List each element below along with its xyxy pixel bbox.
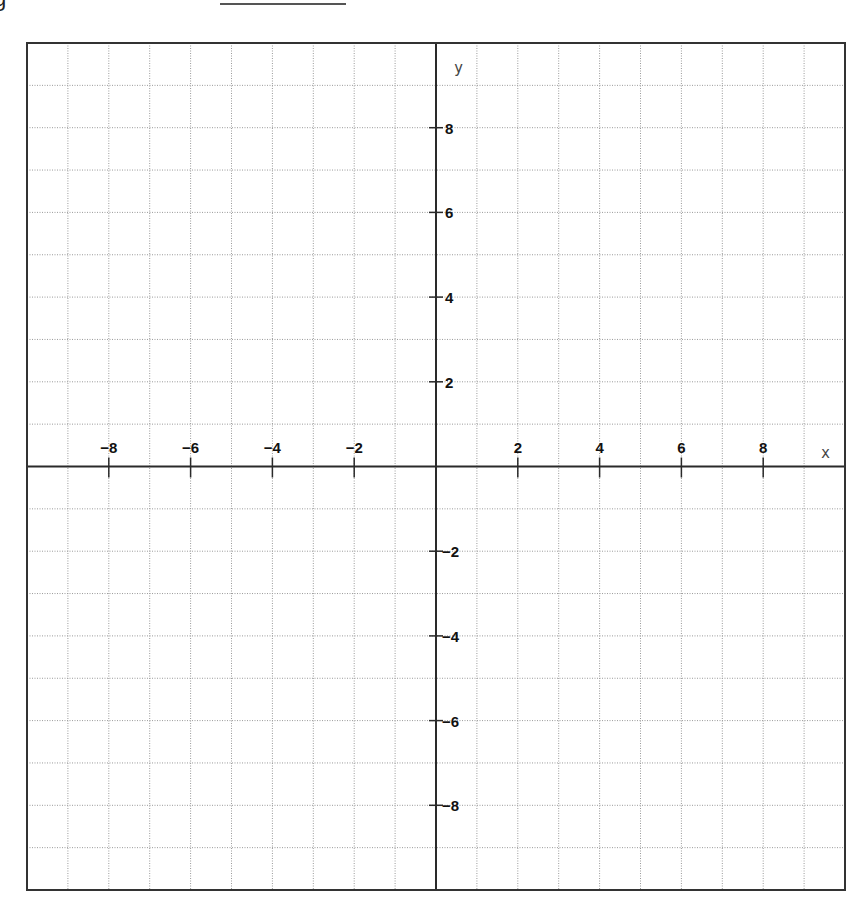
x-tick-label: 4 bbox=[595, 439, 604, 456]
y-tick-label: 6 bbox=[442, 204, 453, 221]
x-tick-label: 8 bbox=[759, 439, 767, 456]
y-tick-label: 4 bbox=[442, 289, 454, 306]
x-tick-label: −6 bbox=[182, 439, 199, 456]
x-tick-label: 6 bbox=[677, 439, 685, 456]
x-tick-label: 2 bbox=[514, 439, 522, 456]
x-tick-label: −8 bbox=[100, 439, 117, 456]
y-tick-label: 2 bbox=[442, 374, 453, 391]
x-tick-label: −2 bbox=[346, 439, 363, 456]
y-tick-label: −2 bbox=[442, 543, 459, 560]
y-tick-label: 8 bbox=[442, 120, 453, 137]
y-tick-label: −6 bbox=[442, 713, 459, 730]
y-tick-label: −4 bbox=[442, 628, 460, 645]
coordinate-plane: −8−6−4−22468 8 6 4 2−2−4−6−8 x y bbox=[0, 0, 861, 906]
y-tick-label: −8 bbox=[442, 797, 459, 814]
x-axis-label: x bbox=[821, 444, 830, 462]
y-axis-label: y bbox=[454, 59, 463, 77]
x-tick-label: −4 bbox=[264, 439, 282, 456]
